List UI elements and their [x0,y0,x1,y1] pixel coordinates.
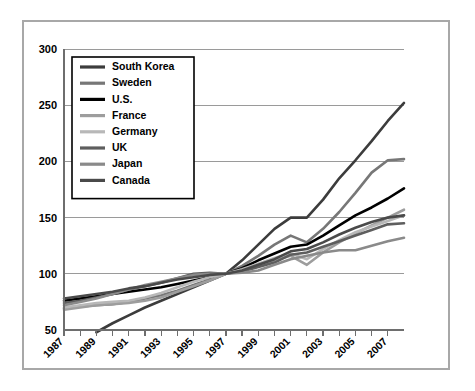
y-axis-tick-labels: 50100150200250300 [39,43,57,336]
legend-label-germany: Germany [112,125,158,137]
legend-label-japan: Japan [112,157,142,169]
x-tick-label-1993: 1993 [138,335,163,360]
x-tick-label-2005: 2005 [332,335,357,360]
legend-label-u-s: U.S. [112,93,133,105]
x-tick-label-1997: 1997 [202,335,227,360]
x-tick-label-2003: 2003 [299,335,324,360]
line-chart-plot: 50100150200250300 1987198919911993199519… [24,22,448,368]
y-tick-label-150: 150 [39,212,57,224]
x-tick-label-1987: 1987 [40,335,65,360]
x-axis-tick-labels: 1987198919911993199519971999200120032005… [40,335,389,360]
x-tick-label-1991: 1991 [105,335,130,360]
chart-legend: South KoreaSwedenU.S.FranceGermanyUKJapa… [72,57,194,199]
y-tick-label-300: 300 [39,43,57,55]
legend-label-canada: Canada [112,174,150,186]
y-tick-label-100: 100 [39,268,57,280]
y-tick-label-250: 250 [39,99,57,111]
y-tick-label-50: 50 [45,324,57,336]
x-tick-label-1989: 1989 [73,335,98,360]
legend-label-sweden: Sweden [112,76,152,88]
y-tick-label-200: 200 [39,155,57,167]
x-tick-label-1995: 1995 [170,335,195,360]
chart-frame: 50100150200250300 1987198919911993199519… [22,20,450,370]
legend-label-south-korea: South Korea [112,60,175,72]
figure-root: 50100150200250300 1987198919911993199519… [0,0,475,391]
legend-label-france: France [112,109,147,121]
x-tick-label-1999: 1999 [235,335,260,360]
series-line-canada [64,215,404,298]
x-tick-label-2007: 2007 [364,335,389,360]
legend-label-uk: UK [112,141,128,153]
series-line-u-s [64,188,404,300]
x-tick-label-2001: 2001 [267,335,292,360]
